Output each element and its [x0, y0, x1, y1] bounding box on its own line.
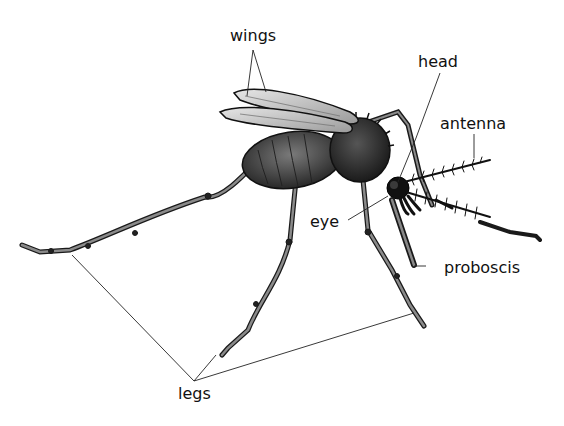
palps	[400, 196, 420, 214]
label-head: head	[418, 54, 458, 70]
hind-leg	[22, 150, 268, 254]
label-proboscis: proboscis	[444, 260, 520, 276]
label-eye: eye	[310, 214, 339, 230]
label-antenna: antenna	[440, 116, 506, 132]
label-legs: legs	[178, 386, 211, 402]
right-leg	[480, 222, 540, 240]
head	[387, 177, 409, 199]
mosquito-diagram: wings head antenna eye proboscis legs	[0, 0, 564, 426]
abdomen	[239, 125, 346, 194]
label-wings: wings	[230, 28, 276, 44]
mosquito-illustration	[0, 0, 564, 426]
wings	[220, 89, 358, 133]
